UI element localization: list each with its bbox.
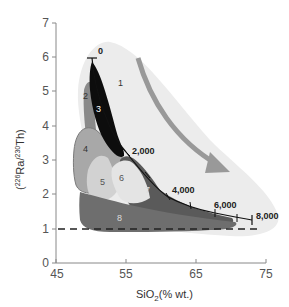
x-ticks bbox=[56, 259, 266, 263]
y-tick-5: 5 bbox=[42, 84, 49, 98]
y-tick-6: 6 bbox=[42, 50, 49, 64]
region-label-4: 4 bbox=[83, 144, 88, 154]
region-label-6: 6 bbox=[119, 173, 124, 183]
region-label-1: 1 bbox=[118, 78, 123, 88]
region-label-5: 5 bbox=[100, 177, 105, 187]
x-tick-55: 55 bbox=[119, 267, 133, 281]
y-tick-3: 3 bbox=[42, 153, 49, 167]
y-tick-0: 0 bbox=[42, 256, 49, 270]
x-axis-title: SiO2(% wt.) bbox=[136, 288, 193, 303]
age-label-8000: 8,000 bbox=[256, 211, 279, 221]
region-label-2: 2 bbox=[83, 91, 88, 101]
age-label-4000: 4,000 bbox=[172, 185, 195, 195]
x-tick-65: 65 bbox=[189, 267, 203, 281]
age-label-6000: 6,000 bbox=[214, 200, 237, 210]
age-label-2000: 2,000 bbox=[132, 146, 155, 156]
region-label-3: 3 bbox=[96, 104, 101, 114]
x-tick-75: 75 bbox=[259, 267, 273, 281]
y-tick-4: 4 bbox=[42, 119, 49, 133]
x-tick-45: 45 bbox=[50, 267, 64, 281]
age-label-0: 0 bbox=[98, 46, 103, 56]
y-tick-2: 2 bbox=[42, 187, 49, 201]
region-label-7: 7 bbox=[145, 185, 150, 195]
y-tick-1: 1 bbox=[42, 222, 49, 236]
chart: 1 2 3 4 5 6 7 8 0 2,000 4,000 6,000 8,00… bbox=[0, 0, 289, 307]
region-label-8: 8 bbox=[117, 213, 122, 223]
y-ticks bbox=[52, 23, 56, 263]
y-axis-title: (226Ra/230Th) bbox=[14, 129, 26, 190]
y-tick-7: 7 bbox=[42, 16, 49, 30]
